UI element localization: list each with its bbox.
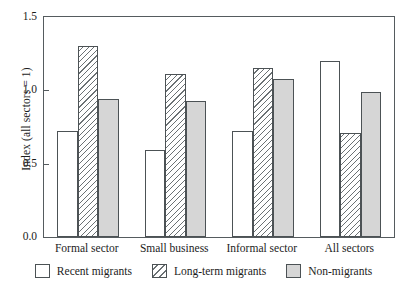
x-axis-category-label: Formal sector (55, 242, 119, 254)
legend-swatch-hatch (152, 264, 167, 278)
bar-chart-figure: Index (all sectors = 1) 0.00.51.01.5 Rec… (0, 0, 407, 291)
plot-area: 0.00.51.01.5 (43, 16, 395, 238)
y-axis-tick-label: 0.5 (11, 158, 37, 170)
bar (145, 150, 166, 237)
y-axis-tick-label: 0.0 (11, 231, 37, 243)
legend-item: Non-migrants (286, 264, 372, 278)
y-axis-tick-label: 1.5 (11, 11, 37, 23)
bar (232, 131, 253, 237)
bar (78, 46, 99, 237)
bar (253, 68, 274, 237)
legend-swatch-gray (286, 264, 301, 278)
y-axis-tick-mark (44, 164, 49, 165)
x-axis-category-label: Small business (140, 242, 209, 254)
y-axis-label: Index (all sectors = 1) (20, 29, 32, 209)
bar (361, 92, 382, 237)
bar (57, 131, 78, 237)
legend-item-label: Recent migrants (57, 265, 132, 277)
legend-item: Recent migrants (35, 264, 132, 278)
legend-item-label: Long-term migrants (174, 265, 266, 277)
legend-swatch-white (35, 264, 50, 278)
x-axis-category-label: Informal sector (226, 242, 297, 254)
y-axis-tick-mark (44, 90, 49, 91)
bar (98, 99, 119, 237)
chart-legend: Recent migrantsLong-term migrantsNon-mig… (0, 264, 407, 278)
legend-item: Long-term migrants (152, 264, 266, 278)
x-axis-category-label: All sectors (324, 242, 374, 254)
y-axis-tick-label: 1.0 (11, 85, 37, 97)
bar (186, 101, 207, 237)
bar (340, 133, 361, 237)
bar (165, 74, 186, 237)
legend-item-label: Non-migrants (308, 265, 372, 277)
bar (273, 79, 294, 237)
bar (320, 61, 341, 237)
